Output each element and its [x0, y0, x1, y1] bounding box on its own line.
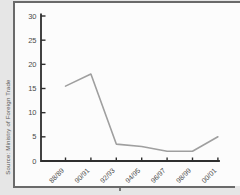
- scanned-figure-page: Source: Ministry of Foreign Trade 051015…: [0, 0, 240, 195]
- axes: [41, 15, 219, 162]
- x-tick-label: 00/01: [200, 167, 217, 184]
- y-tick-label: 15: [28, 84, 36, 93]
- x-tick-label: 94/95: [124, 167, 141, 184]
- x-tick-label: 96/97: [149, 167, 166, 184]
- y-tick-label: 0: [32, 157, 36, 166]
- y-tick-label: 30: [28, 12, 36, 21]
- y-tick-label: 10: [28, 108, 36, 117]
- y-tick-label: 20: [28, 60, 36, 69]
- line-chart: 05101520253088/8990/9192/9394/9596/9798/…: [0, 0, 240, 195]
- x-tick-label: 88/89: [48, 167, 65, 184]
- y-tick-label: 25: [28, 36, 36, 45]
- y-tick-label: 5: [32, 132, 36, 141]
- data-line: [66, 74, 218, 151]
- x-tick-label: 90/91: [73, 167, 90, 184]
- x-tick-label: 92/93: [99, 167, 116, 184]
- x-tick-label: 98/99: [175, 167, 192, 184]
